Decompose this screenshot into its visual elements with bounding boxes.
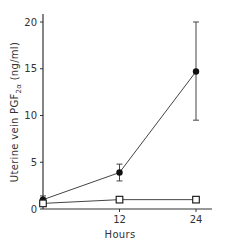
- x-axis-label: Hours: [105, 229, 136, 240]
- data-point-filled-circle: [116, 169, 122, 175]
- axes: [43, 14, 212, 209]
- x-tick-label: 12: [113, 214, 126, 225]
- data-point-open-square: [40, 200, 47, 207]
- y-axis-label: Uterine vein PGF2α (ng/ml): [9, 42, 23, 182]
- data-point-open-square: [193, 196, 200, 203]
- y-tick-label: 0: [31, 204, 37, 215]
- y-ticks: 05101520: [24, 17, 43, 215]
- y-tick-label: 5: [31, 157, 37, 168]
- y-tick-label: 15: [24, 63, 37, 74]
- x-tick-label: 24: [190, 214, 203, 225]
- x-ticks: 1224: [113, 209, 202, 225]
- y-tick-label: 10: [24, 110, 37, 121]
- series-group: [40, 22, 200, 207]
- chart: 05101520 1224 Hours Uterine vein PGF2α (…: [0, 0, 225, 244]
- y-tick-label: 20: [24, 17, 37, 28]
- data-point-open-square: [116, 196, 123, 203]
- data-point-filled-circle: [193, 68, 199, 74]
